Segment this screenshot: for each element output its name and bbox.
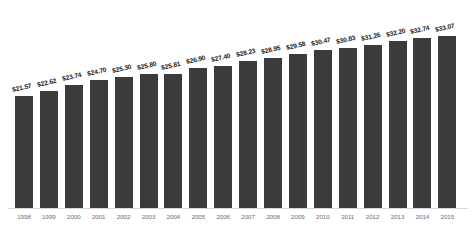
bar-group: $25.30 <box>115 0 133 209</box>
bar-value-label: $22.62 <box>36 76 57 87</box>
bar-chart: $21.57$22.62$23.74$24.70$25.30$25.80$25.… <box>0 0 475 235</box>
bar-group: $32.74 <box>413 0 431 209</box>
bar-group: $23.74 <box>65 0 83 209</box>
bar-value-label: $27.40 <box>211 51 232 62</box>
bar <box>140 74 158 209</box>
bar <box>389 41 407 209</box>
bar <box>214 66 232 209</box>
bar <box>189 68 207 209</box>
bar <box>264 58 282 209</box>
bar-group: $33.07 <box>438 0 456 209</box>
bar <box>289 54 307 209</box>
bar <box>164 74 182 209</box>
bar-group: $22.62 <box>40 0 58 209</box>
x-axis-line <box>8 208 468 209</box>
bar-group: $30.47 <box>314 0 332 209</box>
bar-group: $27.40 <box>214 0 232 209</box>
bar-value-label: $30.83 <box>335 33 356 44</box>
bar-value-label: $23.74 <box>61 71 82 82</box>
bar-value-label: $31.26 <box>360 31 381 42</box>
bar-value-label: $25.30 <box>111 62 132 73</box>
bar-value-label: $32.74 <box>410 24 431 35</box>
bar <box>90 80 108 209</box>
bar-value-label: $33.07 <box>435 22 456 33</box>
bar-group: $29.58 <box>289 0 307 209</box>
bar-value-label: $28.95 <box>260 43 281 54</box>
bar <box>239 61 257 209</box>
bar-value-label: $32.20 <box>385 26 406 37</box>
bar-group: $26.90 <box>189 0 207 209</box>
bar-group: $25.81 <box>164 0 182 209</box>
bar <box>314 50 332 209</box>
x-axis-tick-label: 2015 <box>432 213 462 220</box>
bar-group: $25.80 <box>140 0 158 209</box>
bar-group: $28.23 <box>239 0 257 209</box>
bar-value-label: $25.80 <box>136 60 157 71</box>
bar <box>40 91 58 209</box>
bar-group: $24.70 <box>90 0 108 209</box>
plot-area: $21.57$22.62$23.74$24.70$25.30$25.80$25.… <box>0 0 475 209</box>
bar <box>15 96 33 209</box>
bar-value-label: $28.23 <box>236 47 257 58</box>
bar-value-label: $30.47 <box>310 35 331 46</box>
bar <box>65 85 83 209</box>
bar-group: $31.26 <box>364 0 382 209</box>
bar-value-label: $26.90 <box>186 54 207 65</box>
bar-value-label: $25.81 <box>161 60 182 71</box>
bar-value-label: $29.58 <box>285 40 306 51</box>
bar <box>115 77 133 209</box>
bar <box>438 36 456 209</box>
bar-value-label: $21.57 <box>11 82 32 93</box>
bar <box>413 38 431 209</box>
bar-group: $32.20 <box>389 0 407 209</box>
bar-value-label: $24.70 <box>86 66 107 77</box>
bar-group: $28.95 <box>264 0 282 209</box>
bar-group: $30.83 <box>339 0 357 209</box>
bar <box>339 48 357 209</box>
bar <box>364 45 382 209</box>
bar-group: $21.57 <box>15 0 33 209</box>
